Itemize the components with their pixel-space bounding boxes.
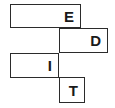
- diagram-canvas: E D I T: [0, 0, 115, 108]
- block-t: T: [59, 77, 85, 103]
- block-e: E: [10, 4, 81, 28]
- block-d: D: [59, 28, 108, 53]
- block-i: I: [10, 53, 59, 78]
- block-t-label: T: [69, 83, 84, 98]
- block-d-label: D: [90, 33, 107, 48]
- block-e-label: E: [64, 9, 80, 24]
- block-i-label: I: [48, 58, 58, 73]
